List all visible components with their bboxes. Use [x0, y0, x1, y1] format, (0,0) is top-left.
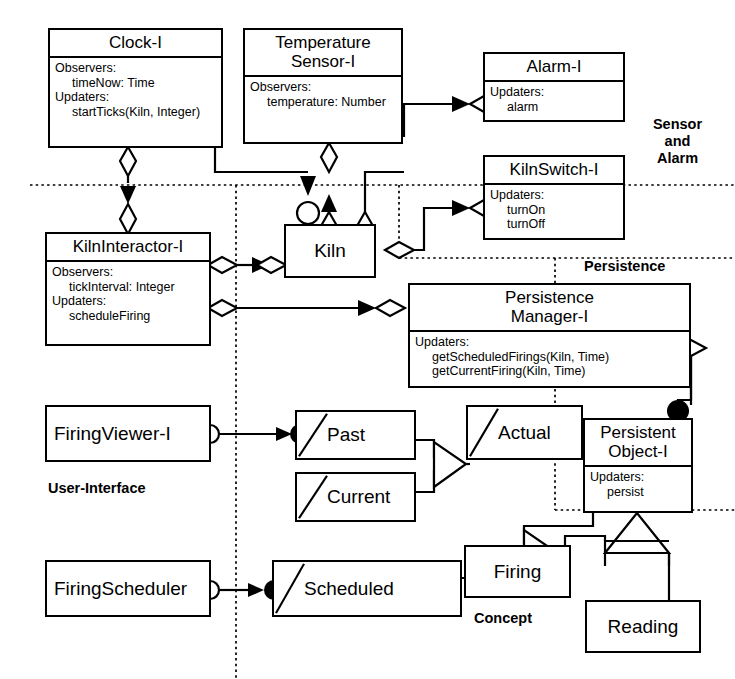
class-body-persistence-manager: Updaters:getScheduledFirings(Kiln, Time)…	[410, 332, 689, 383]
class-op-startticks: startTicks(Kiln, Integer)	[55, 105, 217, 120]
class-op-getcurrentfiring: getCurrentFiring(Kiln, Time)	[415, 364, 685, 379]
class-body-alarm: Updaters:alarm	[485, 82, 623, 118]
connector-clock-kiln-arrow	[120, 186, 136, 204]
class-body-kiln-interactor: Observers:tickInterval: IntegerUpdaters:…	[47, 262, 209, 327]
class-title-kiln-switch: KilnSwitch-I	[485, 157, 623, 185]
class-attr-temperature: temperature: Number	[250, 95, 397, 110]
class-op-schedulefiring: scheduleFiring	[52, 309, 205, 324]
connector-clock-kiln-lower	[120, 204, 136, 234]
connector-tempsensor-kiln-arrow	[321, 194, 337, 212]
class-box-persistence-manager[interactable]: Persistence Manager-I Updaters:getSchedu…	[408, 283, 691, 388]
class-op-alarm: alarm	[490, 100, 619, 115]
class-box-past[interactable]: Past	[295, 410, 416, 460]
generalization-triangle-actual	[434, 442, 466, 487]
connector-persistent-firing	[565, 536, 605, 553]
class-title-persistent-object: Persistent Object-I	[585, 420, 691, 467]
class-label-past: Past	[297, 424, 414, 446]
class-box-firing-scheduler[interactable]: FiringScheduler	[45, 560, 211, 617]
class-title-temperature-sensor: Temperature Sensor-I	[245, 30, 401, 77]
connector-interactor-kiln-diamond	[208, 257, 237, 273]
class-title-persistence-manager: Persistence Manager-I	[410, 285, 689, 332]
class-op-getscheduledfirings: getScheduledFirings(Kiln, Time)	[415, 350, 685, 365]
class-box-persistent-object[interactable]: Persistent Object-I Updaters:persist	[583, 418, 693, 513]
class-box-temperature-sensor[interactable]: Temperature Sensor-I Observers:temperatu…	[243, 28, 403, 144]
region-label-persistence: Persistence	[584, 258, 665, 275]
class-body-persistent-object: Updaters:persist	[585, 467, 691, 503]
connector-firingviewer-past-arrow	[276, 427, 292, 441]
class-op-turnon: turnOn	[490, 203, 619, 218]
class-label-firing-scheduler: FiringScheduler	[47, 578, 209, 600]
connector-tempsensor-alarm	[404, 104, 452, 137]
connector-clock-kiln	[120, 147, 136, 183]
class-box-kiln-switch[interactable]: KilnSwitch-I Updaters:turnOnturnOff	[483, 155, 625, 240]
region-label-user-interface: User-Interface	[48, 480, 146, 497]
connector-kilnswitch-arrow	[452, 200, 470, 216]
class-box-firing[interactable]: Firing	[464, 545, 571, 598]
class-title-alarm: Alarm-I	[485, 54, 623, 82]
class-label-firing: Firing	[466, 561, 569, 583]
class-title-clock: Clock-I	[50, 30, 221, 58]
class-title-kiln-interactor: KilnInteractor-I	[47, 234, 209, 262]
diagram-canvas: Clock-I Observers:timeNow: TimeUpdaters:…	[0, 0, 735, 679]
connector-kiln-kilnswitch	[414, 208, 452, 250]
connector-alarm-arrow	[452, 96, 470, 112]
connector-current-actual	[416, 470, 434, 492]
class-body-kiln-switch: Updaters:turnOnturnOff	[485, 185, 623, 236]
region-label-sensor-and-alarm: Sensor and Alarm	[630, 116, 725, 167]
connector-pm-arrow	[358, 300, 376, 316]
class-body-clock: Observers:timeNow: TimeUpdaters:startTic…	[50, 58, 221, 123]
class-op-persist: persist	[590, 485, 687, 500]
class-box-kiln[interactable]: Kiln	[284, 224, 376, 278]
region-label-concept: Concept	[474, 610, 532, 627]
class-attr-tickinterval: tickInterval: Integer	[52, 280, 205, 295]
class-box-reading[interactable]: Reading	[585, 600, 701, 653]
class-box-alarm[interactable]: Alarm-I Updaters:alarm	[483, 52, 625, 122]
connector-kiln-right-diamond	[385, 242, 414, 258]
class-box-firing-viewer[interactable]: FiringViewer-I	[45, 405, 211, 462]
connector-tempsensor-kiln	[321, 143, 337, 172]
class-label-reading: Reading	[587, 616, 699, 638]
class-box-scheduled[interactable]: Scheduled	[272, 560, 462, 617]
class-label-current: Current	[297, 486, 414, 508]
kiln-interface-socket	[297, 202, 319, 224]
class-label-kiln: Kiln	[286, 240, 374, 262]
class-label-firing-viewer: FiringViewer-I	[47, 423, 209, 445]
connector-kiln-left-diamond	[257, 257, 286, 273]
class-op-turnoff: turnOff	[490, 217, 619, 232]
class-body-temperature-sensor: Observers:temperature: Number	[245, 77, 401, 113]
class-label-actual: Actual	[468, 422, 581, 444]
class-box-kiln-interactor[interactable]: KilnInteractor-I Observers:tickInterval:…	[45, 232, 211, 346]
connector-kiln-socket-arrow	[300, 176, 316, 196]
class-label-scheduled: Scheduled	[274, 578, 460, 600]
connector-persistent-branch	[605, 553, 669, 566]
connector-firingscheduler-scheduled-arrow	[248, 583, 264, 597]
connector-clock-right-to-kiln	[215, 147, 308, 172]
class-box-clock[interactable]: Clock-I Observers:timeNow: TimeUpdaters:…	[48, 28, 223, 148]
class-attr-timenow: timeNow: Time	[55, 76, 217, 91]
generalization-triangle-persistent	[605, 513, 669, 553]
class-box-current[interactable]: Current	[295, 472, 416, 522]
connector-past-actual	[416, 440, 434, 458]
class-box-actual[interactable]: Actual	[466, 405, 583, 460]
connector-interactor-pm-diamond	[208, 300, 237, 316]
connector-pm-diamond	[376, 300, 405, 316]
